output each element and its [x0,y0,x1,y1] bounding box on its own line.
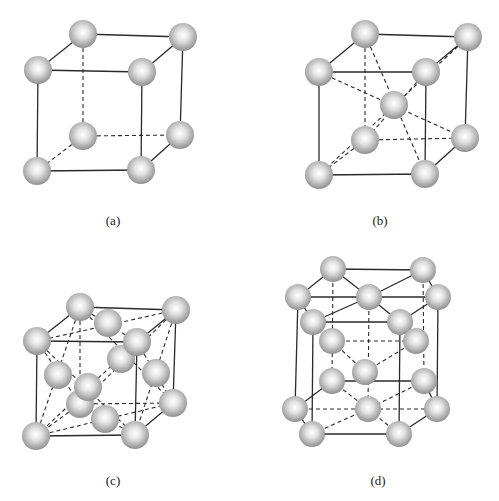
atom-sphere [94,309,122,337]
cell-edge-line [80,307,176,310]
atom-sphere [411,368,437,394]
cell-edge-line [37,341,137,342]
panel-label-a: (a) [106,213,120,229]
hidden-bond-line [368,297,369,409]
atom-sphere [386,421,412,447]
atom-sphere [351,126,379,154]
cell-edge-line [399,322,400,434]
cell-edge-line [437,297,438,409]
panel-d-hexagonal-close-packed [282,256,451,447]
atom-sphere [299,421,325,447]
cell-edge-line [465,37,468,138]
atom-sphere [169,23,197,51]
atom-sphere [300,309,326,335]
atom-sphere [319,368,345,394]
cell-edge-line [365,34,468,37]
cell-edge-line [37,170,141,171]
atom-sphere [162,296,190,324]
atom-sphere [285,284,311,310]
cell-edge-line [180,37,183,135]
atom-sphere [69,122,97,150]
atom-sphere [69,20,97,48]
atom-sphere [159,389,187,417]
crystal-structures-figure [0,0,499,501]
atom-sphere [305,161,333,189]
cell-edge-line [36,435,135,436]
atom-sphere [142,359,170,387]
atom-sphere [380,91,408,119]
atom-sphere [424,396,450,422]
hidden-bond-line [423,270,424,381]
cell-edge-line [38,70,142,72]
cell-edge-line [83,34,183,37]
atom-sphere [123,328,151,356]
atom-sphere [23,157,51,185]
cell-edge-line [312,322,313,434]
atom-sphere [351,20,379,48]
atom-sphere [412,58,440,86]
atom-sphere [23,327,51,355]
hidden-bond-line [332,269,333,381]
cell-edge-line [37,70,38,171]
panel-label-c: (c) [106,473,120,489]
atom-sphere [128,58,156,86]
atom-sphere [74,373,102,401]
atom-sphere [425,284,451,310]
atom-sphere [66,293,94,321]
cell-edge-line [295,297,298,409]
atom-sphere [320,256,346,282]
hidden-bond-line [365,138,465,140]
atom-sphere [451,124,479,152]
hidden-bond-line [83,135,180,136]
atom-sphere [305,58,333,86]
atom-sphere [44,361,72,389]
atom-sphere [355,396,381,422]
atom-sphere [166,121,194,149]
atom-sphere [91,405,119,433]
panel-label-b: (b) [372,213,387,229]
atom-sphere [403,328,429,354]
panel-label-d: (d) [370,473,385,489]
panel-c-face-centered-cubic [22,293,190,450]
atom-sphere [121,421,149,449]
atom-sphere [352,359,378,385]
cell-edge-line [141,72,142,170]
panel-a-simple-cubic [23,20,197,185]
atom-sphere [319,328,345,354]
cell-edge-line [36,341,37,436]
atom-sphere [411,160,439,188]
cell-edge-line [425,72,426,174]
atom-sphere [22,422,50,450]
atom-sphere [282,396,308,422]
panel-b-body-centered-cubic [305,20,482,189]
atom-sphere [410,257,436,283]
cell-edge-line [333,269,423,270]
atom-sphere [24,56,52,84]
atom-sphere [356,284,382,310]
cell-edge-line [319,174,425,175]
atom-sphere [127,156,155,184]
atom-sphere [454,23,482,51]
